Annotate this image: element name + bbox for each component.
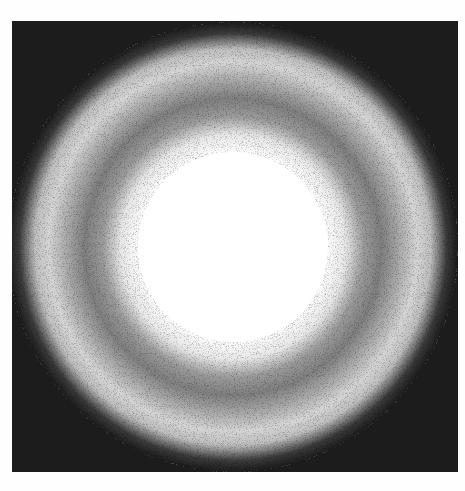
image-canvas xyxy=(0,0,465,491)
halo-ring-graphic xyxy=(12,21,458,472)
halo-ring xyxy=(12,21,458,472)
dark-frame xyxy=(12,21,458,472)
